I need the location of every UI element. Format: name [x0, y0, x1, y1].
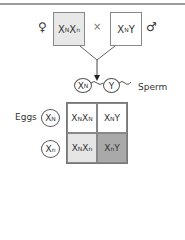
- sperm-gamete-xN: XN: [74, 78, 92, 93]
- allele-sup: N: [51, 115, 56, 122]
- allele-base: Y: [109, 81, 115, 91]
- sperm-label: Sperm: [138, 82, 167, 92]
- allele-sup: N: [84, 82, 89, 89]
- allele-base: Y: [115, 113, 121, 123]
- punnett-square: XNXN XNY XNXn XnY: [66, 102, 128, 164]
- sperm-tail-icon: [119, 82, 131, 85]
- punnett-cell-xNxn: XNXn: [67, 133, 97, 163]
- allele-base: Y: [114, 143, 120, 153]
- sperm-tail-icon: [91, 82, 103, 85]
- sperm-gamete-y: Y: [103, 78, 120, 93]
- punnett-cell-xNy: XNY: [97, 103, 127, 133]
- egg-gamete-xN: XN: [41, 109, 60, 127]
- arrow-down-icon: [94, 75, 100, 81]
- allele-sup: n: [89, 145, 93, 152]
- egg-gamete-xn: Xn: [41, 140, 60, 158]
- punnett-cell-xNxN: XNXN: [67, 103, 97, 133]
- allele-sup: N: [88, 115, 93, 122]
- punnett-cell-xny: XnY: [97, 133, 127, 163]
- allele-sup: n: [52, 146, 56, 153]
- eggs-label: Eggs: [15, 112, 37, 122]
